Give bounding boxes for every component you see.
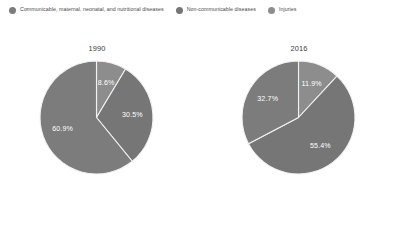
legend-item-communicable[interactable]: Communicable, maternal, neonatal, and nu… [9, 7, 164, 14]
charts-container: 1990 8.6%30.5%60.9% 2016 11.9%55.4%32.7% [0, 20, 394, 252]
pie-slice-label: 55.4% [310, 142, 331, 150]
pie-svg: 11.9%55.4%32.7% [242, 61, 355, 174]
legend-item-label: Injuries [279, 7, 296, 12]
circle-marker-icon [268, 7, 275, 14]
chart-legend: Communicable, maternal, neonatal, and nu… [0, 0, 394, 20]
pie-chart-1990: 1990 8.6%30.5%60.9% [7, 20, 187, 252]
legend-item-injuries[interactable]: Injuries [268, 7, 296, 14]
pie-chart-2016: 2016 11.9%55.4%32.7% [209, 20, 389, 252]
legend-item-label: Communicable, maternal, neonatal, and nu… [20, 7, 164, 12]
pie-slice-label: 60.9% [52, 125, 73, 133]
pie-canvas: 11.9%55.4%32.7% [242, 61, 355, 174]
chart-title: 1990 [7, 44, 187, 53]
circle-marker-icon [176, 7, 183, 14]
legend-item-label: Non-communicable diseases [187, 7, 256, 12]
legend-item-noncommunicable[interactable]: Non-communicable diseases [176, 7, 256, 14]
chart-title: 2016 [209, 44, 389, 53]
circle-marker-icon [9, 7, 16, 14]
pie-slice-label: 8.6% [98, 79, 115, 87]
pie-slice-label: 30.5% [122, 111, 143, 119]
pie-slice-label: 11.9% [301, 80, 322, 88]
pie-slice-label: 32.7% [257, 95, 278, 103]
pie-canvas: 8.6%30.5%60.9% [40, 61, 153, 174]
pie-svg: 8.6%30.5%60.9% [40, 61, 153, 174]
